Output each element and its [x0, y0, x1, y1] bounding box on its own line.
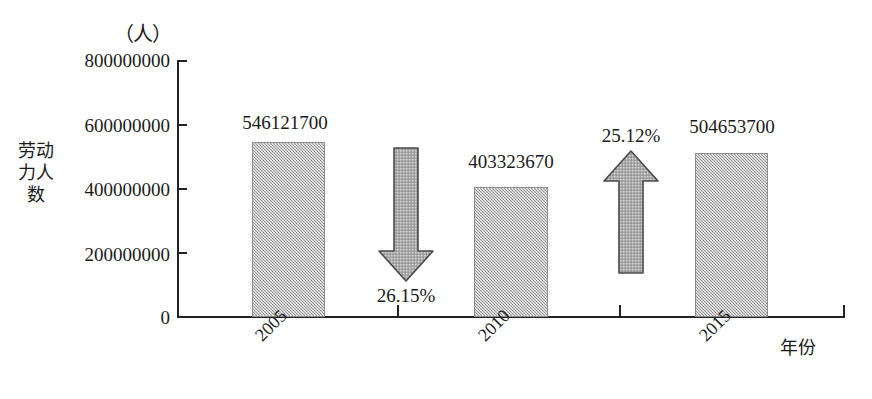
figure-caption — [0, 386, 872, 399]
y-tick-mark-600000000 — [178, 124, 187, 126]
x-axis-title: 年份 — [780, 333, 816, 359]
increase-arrow-icon — [602, 149, 660, 275]
y-tick-text: 0 — [58, 308, 170, 327]
x-tick-mark-1 — [397, 305, 399, 317]
y-tick-label-800000000: 800000000 — [58, 51, 170, 70]
y-axis-title: 劳动力人数 — [16, 140, 56, 206]
bar-2015[interactable] — [695, 153, 768, 317]
y-tick-text: 600000000 — [58, 116, 170, 135]
y-tick-label-200000000: 200000000 — [58, 245, 170, 264]
bar-value-label-2010: 403323670 — [436, 152, 586, 171]
bar-value-label-2005: 546121700 — [210, 113, 360, 132]
y-tick-mark-800000000 — [178, 60, 187, 62]
increase-arrow-label: 25.12% — [571, 126, 691, 145]
chart-figure: （人） 劳动力人数 800000000 600000000 400000000 … — [0, 0, 872, 399]
y-tick-label-400000000: 400000000 — [58, 180, 170, 199]
decrease-arrow-label: 26.15% — [346, 286, 466, 305]
y-tick-mark-400000000 — [178, 188, 187, 190]
decrease-arrow-icon — [376, 147, 436, 283]
y-axis-unit-label: （人） — [96, 18, 188, 47]
y-tick-text: 400000000 — [58, 180, 170, 199]
y-tick-text: 800000000 — [58, 51, 170, 70]
y-tick-label-0: 0 — [58, 308, 170, 327]
y-tick-label-600000000: 600000000 — [58, 116, 170, 135]
bar-2005[interactable] — [252, 142, 325, 317]
bar-2010[interactable] — [474, 187, 548, 317]
y-tick-mark-200000000 — [178, 252, 187, 254]
x-tick-mark-end — [843, 305, 845, 317]
y-tick-text: 200000000 — [58, 245, 170, 264]
x-tick-mark-2 — [619, 305, 621, 317]
